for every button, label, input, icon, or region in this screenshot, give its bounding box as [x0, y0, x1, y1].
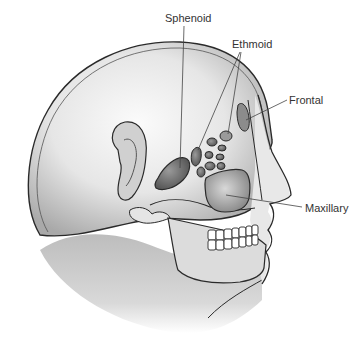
- head-illustration: [0, 0, 364, 339]
- label-maxillary: Maxillary: [305, 202, 348, 214]
- maxillary-sinus: [205, 169, 250, 212]
- label-sphenoid: Sphenoid: [165, 12, 212, 24]
- label-ethmoid: Ethmoid: [232, 38, 272, 50]
- label-frontal: Frontal: [289, 94, 323, 106]
- sinus-diagram: Sphenoid Ethmoid Frontal Maxillary: [0, 0, 364, 339]
